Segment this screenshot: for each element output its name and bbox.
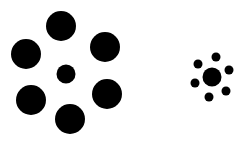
surround-circle <box>194 60 203 69</box>
center-circle <box>203 68 222 87</box>
center-circle <box>57 65 76 84</box>
surround-circle <box>46 11 76 41</box>
surround-circle <box>222 87 231 96</box>
surround-circle <box>205 93 214 102</box>
surround-circle <box>55 104 85 134</box>
surround-circle <box>16 85 46 115</box>
surround-circle <box>90 32 120 62</box>
surround-circle <box>191 79 200 88</box>
ebbinghaus-illusion-figure <box>0 0 243 147</box>
surround-circle <box>11 39 41 69</box>
surround-circle <box>212 53 221 62</box>
surround-circle <box>225 66 234 75</box>
surround-circle <box>92 79 122 109</box>
